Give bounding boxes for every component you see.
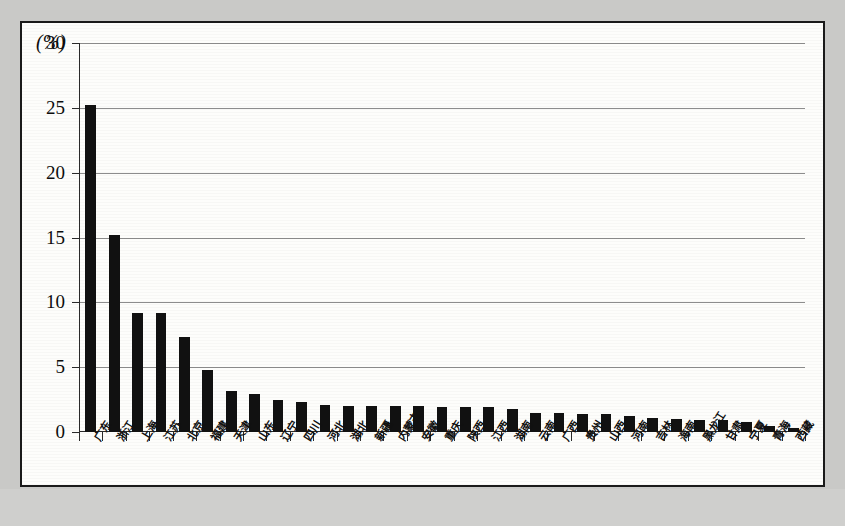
bar (202, 370, 213, 432)
bar-series (79, 43, 805, 432)
caption-strip (0, 489, 845, 526)
bar (156, 313, 167, 432)
plot-area: 051015202530 (57, 43, 805, 435)
figure-page: (%) 051015202530 广东浙江上海江苏北京福建天津山东辽宁四川河北湖… (0, 0, 845, 526)
bar (85, 105, 96, 432)
y-axis-tick-label: 10 (35, 291, 65, 313)
bar (109, 235, 120, 432)
y-axis-tick-label: 15 (35, 227, 65, 249)
chart-paper: (%) 051015202530 广东浙江上海江苏北京福建天津山东辽宁四川河北湖… (20, 21, 825, 487)
y-axis-tick-label: 20 (35, 162, 65, 184)
bar (132, 313, 143, 432)
bar (179, 337, 190, 432)
y-axis-tick-label: 25 (35, 97, 65, 119)
y-axis-tick-label: 5 (35, 356, 65, 378)
y-axis-tick-label: 30 (35, 32, 65, 54)
